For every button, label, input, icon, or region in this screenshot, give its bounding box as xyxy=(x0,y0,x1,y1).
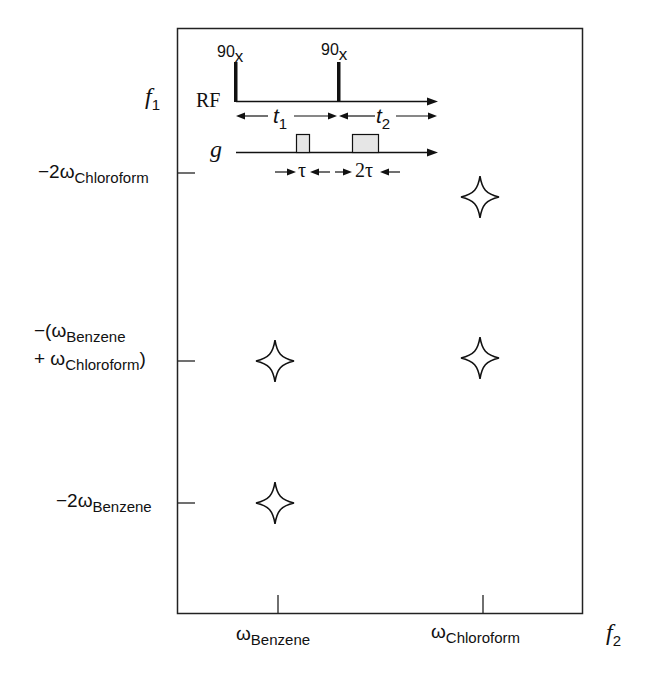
2tau-label: 2τ xyxy=(355,159,373,181)
rf-label: RF xyxy=(196,89,220,111)
gradient-label: g xyxy=(210,136,222,162)
tau-right-arrow-icon xyxy=(287,169,296,176)
pulse2-label: 90x xyxy=(321,41,348,64)
peak-star-icon-benzene-2w xyxy=(256,482,294,524)
gradient-axis-arrow-icon xyxy=(427,149,438,157)
gradient-pulse-2tau xyxy=(353,135,379,153)
peak-star-icon-chloroform-2w xyxy=(461,176,499,218)
2tau-right-arrow-icon xyxy=(343,169,352,176)
x-label-benzene: ωBenzene xyxy=(236,623,310,648)
y-label-sum-line1: −(ωBenzene xyxy=(34,320,125,345)
gradient-pulse-tau xyxy=(297,135,310,153)
x-label-chloroform: ωChloroform xyxy=(431,621,520,646)
y-label-2w-benzene: −2ωBenzene xyxy=(56,490,152,515)
tau-label: τ xyxy=(298,159,306,181)
t2-right-arrow-icon xyxy=(428,113,437,120)
rf-pulse-1 xyxy=(234,62,238,102)
t1-left-arrow-icon xyxy=(236,113,245,120)
pulse1-label: 90x xyxy=(217,43,244,66)
tau-left-arrow-icon xyxy=(310,169,319,176)
y-label-sum-line2: + ωChloroform) xyxy=(34,348,146,373)
rf-pulse-2 xyxy=(337,62,341,102)
t1-label: t1 xyxy=(273,104,287,132)
2d-spectrum-diagram: f1 f2 −2ωChloroform −(ωBenzene + ωChloro… xyxy=(0,0,650,675)
t2-label: t2 xyxy=(376,104,390,132)
pulse-sequence-inset: 90x 90x RF t1 t2 g τ xyxy=(196,41,438,181)
t1-right-arrow-icon xyxy=(328,113,337,120)
f2-axis-label: f2 xyxy=(606,619,621,649)
peak-star-icon-benzene-sum xyxy=(256,340,294,382)
rf-axis-arrow-icon xyxy=(427,98,438,106)
2tau-left-arrow-icon xyxy=(380,169,389,176)
y-label-2w-chloroform: −2ωChloroform xyxy=(38,161,149,186)
f1-axis-label: f1 xyxy=(145,83,160,113)
peak-star-icon-chloroform-sum xyxy=(461,337,499,379)
